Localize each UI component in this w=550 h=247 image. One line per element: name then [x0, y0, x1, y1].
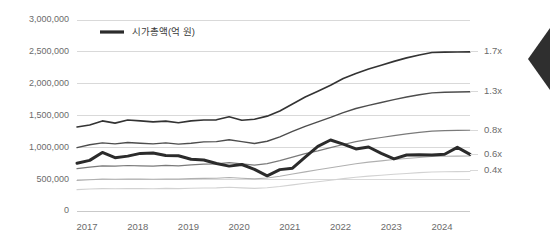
- series-line-0.6x: [77, 156, 470, 180]
- chart-legend: 시가총액(억 원): [100, 26, 195, 37]
- multiplier-label-0.8x: 0.8x: [484, 124, 502, 135]
- gridlines-group: [77, 20, 470, 211]
- x-axis-tick-label: 2019: [178, 221, 199, 232]
- x-axis-tick-label: 2020: [229, 221, 250, 232]
- y-axis-tick-label: 1,500,000: [29, 110, 69, 120]
- series-lines-group: [77, 52, 470, 190]
- x-axis-tick-label: 2017: [76, 221, 97, 232]
- x-axis-tick-label: 2021: [279, 221, 300, 232]
- series-line-0.8x: [77, 130, 470, 168]
- multiplier-label-1.7x: 1.7x: [484, 45, 502, 56]
- multiplier-label-1.3x: 1.3x: [484, 85, 502, 96]
- y-axis-tick-label: 3,000,000: [29, 14, 69, 24]
- x-axis-tick-label: 2023: [381, 221, 402, 232]
- legend-label: 시가총액(억 원): [132, 26, 195, 37]
- y-axis-tick-label: 2,000,000: [29, 78, 69, 88]
- y-axis-tick-label: 1,000,000: [29, 142, 69, 152]
- x-axis-tick-label: 2018: [127, 221, 148, 232]
- multiplier-label-0.6x: 0.6x: [484, 148, 502, 159]
- y-axis-tick-label: 2,500,000: [29, 46, 69, 56]
- x-axis-tick-labels: 20172018201920202021202220232024: [76, 221, 452, 232]
- multiplier-label-0.4x: 0.4x: [484, 164, 502, 175]
- chevron-left-icon: [518, 28, 550, 90]
- right-multiplier-labels: 1.7x1.3x0.8x0.6x0.4x: [470, 45, 502, 174]
- x-axis-tick-label: 2024: [431, 221, 452, 232]
- series-line-1.3x: [77, 92, 470, 148]
- next-slide-arrow[interactable]: [518, 28, 550, 90]
- y-axis-tick-label: 0: [64, 205, 69, 215]
- y-axis-tick-labels: 0500,0001,000,0001,500,0002,000,0002,500…: [29, 14, 69, 215]
- x-axis-tick-label: 2022: [330, 221, 351, 232]
- market-cap-line-chart: 0500,0001,000,0001,500,0002,000,0002,500…: [0, 0, 550, 247]
- y-axis-tick-label: 500,000: [36, 174, 69, 184]
- chart-container: 0500,0001,000,0001,500,0002,000,0002,500…: [0, 0, 550, 247]
